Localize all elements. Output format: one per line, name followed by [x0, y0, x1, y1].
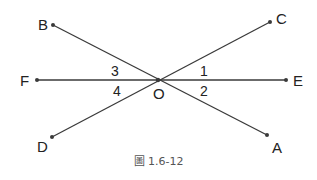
angle-label-1: 1: [200, 63, 208, 79]
angle-label-3: 3: [111, 63, 119, 79]
point-label-b: B: [38, 16, 48, 33]
angle-label-4: 4: [113, 83, 121, 99]
point-d-dot: [50, 135, 54, 139]
angle-diagram: B C F E D A O 1 2 3 4 圖 1.6-12: [0, 0, 317, 180]
point-label-o: O: [153, 85, 165, 102]
point-label-f: F: [20, 72, 29, 89]
point-c-dot: [268, 20, 272, 24]
angle-label-2: 2: [200, 83, 208, 99]
point-f-dot: [35, 78, 39, 82]
point-a-dot: [265, 133, 269, 137]
point-o-dot: [156, 78, 160, 82]
figure-caption: 圖 1.6-12: [0, 152, 317, 168]
point-e-dot: [284, 78, 288, 82]
point-b-dot: [51, 23, 55, 27]
point-label-c: C: [276, 10, 287, 27]
point-label-e: E: [293, 72, 303, 89]
